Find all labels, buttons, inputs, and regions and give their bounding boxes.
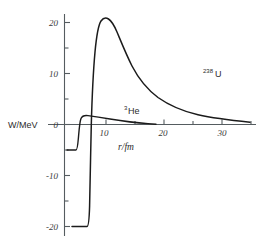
annotation-he3: 3 He [124, 105, 140, 116]
potential-energy-chart: 20 10 0 -10 -20 10 20 30 W/MeV r/fm [0, 0, 260, 247]
x-axis-title: r/fm [118, 142, 134, 152]
curve-u238 [72, 18, 250, 226]
y-axis-title: W/MeV [8, 120, 38, 130]
y-tick-label-neg10: -10 [46, 171, 58, 181]
y-tick-label-neg20: -20 [46, 222, 58, 232]
y-tick-group [65, 23, 71, 227]
x-tick-label-30: 30 [217, 128, 228, 138]
chart-canvas: 20 10 0 -10 -20 10 20 30 W/MeV r/fm [0, 0, 260, 247]
annotation-u238-element: U [215, 69, 222, 79]
annotation-he3-element: He [128, 106, 140, 116]
curve-he3 [67, 115, 156, 150]
x-tick-label-20: 20 [159, 128, 169, 138]
x-tick-label-group: 10 20 30 [100, 128, 228, 138]
y-tick-label-10: 10 [49, 69, 59, 79]
annotation-u238: 238 U [203, 68, 222, 79]
y-tick-label-0: 0 [54, 120, 59, 130]
y-tick-label-20: 20 [49, 18, 59, 28]
annotation-u238-mass: 238 [203, 68, 214, 74]
x-tick-label-10: 10 [100, 128, 110, 138]
